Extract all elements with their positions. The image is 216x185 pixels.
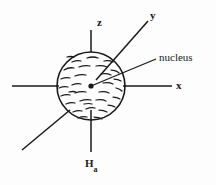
nucleus-dot-icon [88,83,93,88]
minus-y-axis-line [22,110,70,150]
ha-axis-label-base: H [85,157,94,169]
y-axis-label: y [150,10,156,21]
x-axis-label: x [176,80,182,91]
ha-axis-label-subscript: a [94,165,98,174]
atom-axes-diagram: z y x Ha nucleus [0,0,216,185]
z-axis-label: z [97,17,102,28]
nucleus-leader-line [91,59,156,86]
nucleus-label: nucleus [159,52,193,63]
ha-axis-label: Ha [85,158,98,172]
diagram-canvas [0,0,216,185]
